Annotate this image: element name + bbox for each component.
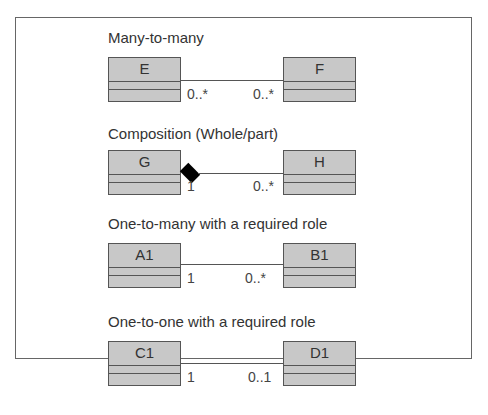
- class-attributes-compartment: [109, 268, 180, 276]
- class-box-a1[interactable]: A1: [108, 243, 181, 288]
- class-name: G: [109, 151, 180, 175]
- class-name: D1: [284, 342, 355, 366]
- class-box-h[interactable]: H: [283, 150, 356, 195]
- class-attributes-compartment: [109, 366, 180, 374]
- class-box-c1[interactable]: C1: [108, 341, 181, 386]
- class-attributes-compartment: [284, 175, 355, 183]
- composition-line: [198, 173, 283, 174]
- class-attributes-compartment: [109, 175, 180, 183]
- class-name: C1: [109, 342, 180, 366]
- right-multiplicity: 0..*: [253, 86, 274, 102]
- class-box-g[interactable]: G: [108, 150, 181, 195]
- association-line: [181, 80, 283, 81]
- class-box-d1[interactable]: D1: [283, 341, 356, 386]
- class-attributes-compartment: [284, 268, 355, 276]
- association-line: [181, 363, 283, 364]
- class-name: E: [109, 58, 180, 82]
- right-multiplicity: 0..*: [253, 178, 274, 194]
- left-multiplicity: 0..*: [187, 86, 208, 102]
- relationship-title-one-to-many-required: One-to-many with a required role: [108, 215, 327, 232]
- class-name: F: [284, 58, 355, 82]
- right-multiplicity: 0..1: [248, 369, 271, 385]
- class-box-b1[interactable]: B1: [283, 243, 356, 288]
- class-attributes-compartment: [109, 82, 180, 90]
- relationship-title-many-to-many: Many-to-many: [108, 29, 204, 46]
- right-multiplicity: 0..*: [245, 270, 266, 286]
- class-name: H: [284, 151, 355, 175]
- association-line: [181, 264, 283, 265]
- class-name: B1: [284, 244, 355, 268]
- relationship-title-one-to-one-required: One-to-one with a required role: [108, 313, 316, 330]
- class-attributes-compartment: [284, 82, 355, 90]
- left-multiplicity: 1: [187, 369, 195, 385]
- class-box-e[interactable]: E: [108, 57, 181, 102]
- class-box-f[interactable]: F: [283, 57, 356, 102]
- class-attributes-compartment: [284, 366, 355, 374]
- class-name: A1: [109, 244, 180, 268]
- diagram-frame: [15, 17, 472, 359]
- left-multiplicity: 1: [187, 270, 195, 286]
- left-multiplicity: 1: [187, 178, 195, 194]
- relationship-title-composition: Composition (Whole/part): [108, 125, 278, 142]
